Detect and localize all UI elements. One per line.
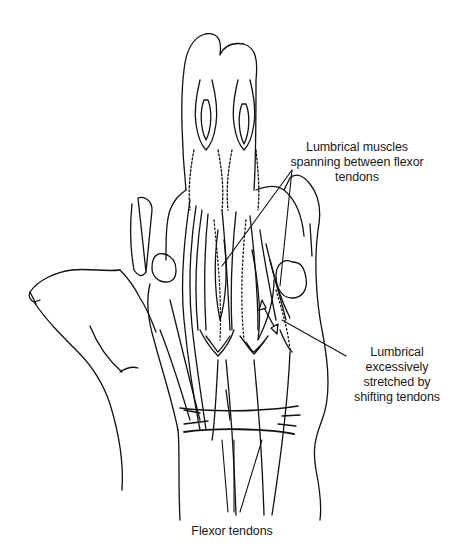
label-line: stretched by bbox=[345, 375, 449, 390]
flexor-tendons bbox=[160, 200, 292, 515]
finger-tendon-sheaths bbox=[189, 80, 259, 210]
label-line: tendons bbox=[282, 170, 432, 185]
label-line: spanning between flexor bbox=[282, 155, 432, 170]
hand-illustration bbox=[0, 0, 452, 559]
hand-outline bbox=[29, 34, 328, 520]
label-line: excessively bbox=[345, 360, 449, 375]
label-lumbrical-stretched: Lumbrical excessively stretched by shift… bbox=[345, 345, 449, 405]
label-line: shifting tendons bbox=[345, 390, 449, 405]
label-line: Flexor tendons bbox=[180, 524, 284, 539]
label-flexor-tendons: Flexor tendons bbox=[180, 524, 284, 539]
label-line: Lumbrical bbox=[345, 345, 449, 360]
leader-lines bbox=[222, 170, 346, 512]
hand-anatomy-diagram: Lumbrical muscles spanning between flexo… bbox=[0, 0, 452, 559]
label-line: Lumbrical muscles bbox=[282, 140, 432, 155]
label-lumbrical-spanning: Lumbrical muscles spanning between flexo… bbox=[282, 140, 432, 185]
